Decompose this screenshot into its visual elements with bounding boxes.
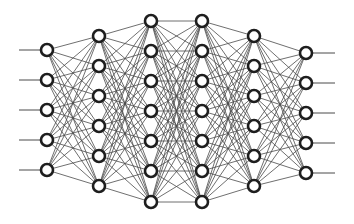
neuron-node — [41, 74, 53, 86]
neuron-node — [93, 30, 105, 42]
neuron-node — [300, 137, 312, 149]
connection-edge — [99, 21, 151, 66]
connection-edge — [47, 170, 99, 186]
neuron-node — [93, 150, 105, 162]
connection-edge — [202, 36, 254, 141]
neuron-node — [248, 90, 260, 102]
neuron-node — [196, 75, 208, 87]
hidden-layer-1 — [93, 30, 105, 192]
connection-edge — [202, 186, 254, 202]
connection-edge — [99, 51, 151, 186]
connection-edge — [99, 21, 151, 156]
neuron-node — [145, 196, 157, 208]
connections — [47, 21, 306, 202]
neuron-node — [93, 90, 105, 102]
connection-edge — [47, 66, 99, 170]
neuron-node — [300, 107, 312, 119]
connection-edge — [202, 36, 254, 111]
neuron-node — [248, 60, 260, 72]
connection-edge — [99, 111, 151, 186]
connection-edge — [202, 21, 254, 36]
hidden-layer-4 — [248, 30, 260, 192]
neuron-node — [41, 134, 53, 146]
output-layer — [300, 47, 312, 179]
connection-edge — [202, 36, 254, 171]
connection-edge — [99, 21, 151, 186]
neuron-node — [196, 105, 208, 117]
neuron-node — [248, 150, 260, 162]
hidden-layer-3 — [196, 15, 208, 208]
connection-edge — [254, 36, 306, 53]
neuron-node — [196, 15, 208, 27]
connection-edge — [47, 36, 99, 140]
neuron-node — [145, 135, 157, 147]
hidden-layer-2 — [145, 15, 157, 208]
neuron-node — [41, 104, 53, 116]
connection-edge — [99, 171, 151, 186]
neuron-node — [300, 77, 312, 89]
connection-edge — [99, 81, 151, 186]
neural-network-diagram — [0, 0, 354, 224]
neuron-node — [145, 105, 157, 117]
neuron-node — [196, 165, 208, 177]
neuron-node — [196, 135, 208, 147]
neuron-node — [300, 167, 312, 179]
connection-edge — [99, 186, 151, 202]
neuron-node — [145, 75, 157, 87]
neuron-node — [145, 15, 157, 27]
neuron-node — [93, 120, 105, 132]
neuron-node — [248, 120, 260, 132]
neuron-node — [248, 180, 260, 192]
neuron-node — [145, 45, 157, 57]
neuron-node — [41, 44, 53, 56]
neuron-node — [248, 30, 260, 42]
connection-edge — [99, 21, 151, 96]
neuron-node — [41, 164, 53, 176]
neuron-node — [300, 47, 312, 59]
input-layer — [41, 44, 53, 176]
neuron-node — [93, 180, 105, 192]
connection-edge — [99, 21, 151, 126]
neuron-node — [196, 196, 208, 208]
neuron-node — [93, 60, 105, 72]
connection-edge — [202, 36, 254, 51]
connection-edge — [99, 21, 151, 36]
neuron-node — [196, 45, 208, 57]
neuron-node — [145, 165, 157, 177]
